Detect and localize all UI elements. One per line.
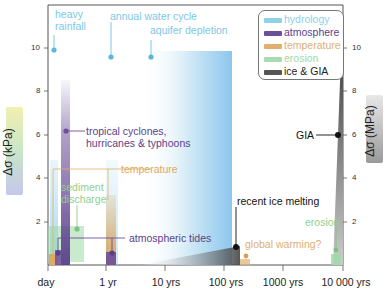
legend-item-ice-gia: ice & GIA: [264, 65, 328, 78]
erosion-dot: [334, 248, 339, 253]
heavy-rainfall-dot: [51, 47, 56, 52]
label-tropical-1: tropical cyclones,: [86, 125, 167, 137]
annual-water-cycle-dot: [108, 54, 113, 59]
x-tick-1000yrs: 1000 yrs: [263, 276, 303, 288]
x-tick-100yrs: 100 yrs: [209, 276, 243, 288]
left-axis-title: Δσ (kPa): [0, 124, 17, 179]
legend-item-atmosphere: atmosphere: [264, 26, 339, 39]
right-tick-6: 6: [352, 130, 356, 139]
label-tropical-2: hurricanes & typhoons: [86, 137, 190, 149]
legend-swatch-temperature: [264, 44, 282, 49]
aquifer-dot: [148, 54, 153, 59]
left-y-ticks: [44, 48, 48, 222]
x-tick-10yrs: 10 yrs: [152, 276, 181, 288]
label-sediment-2: discharge: [61, 193, 107, 205]
left-tick-2: 2: [36, 217, 40, 226]
right-tick-10: 10: [352, 43, 361, 52]
recent-ice-melting-dot: [233, 244, 239, 250]
right-axis-title: Δσ (MPa): [361, 101, 379, 160]
legend-item-temperature: temperature: [264, 39, 341, 52]
x-tick-10000yrs: 10 000 yrs: [321, 276, 370, 288]
global-warming-bar: [240, 259, 250, 265]
label-recent-ice-melting: recent ice melting: [237, 195, 319, 207]
legend-swatch-erosion: [264, 57, 282, 62]
gia-dot: [335, 132, 341, 138]
left-tick-8: 8: [36, 86, 40, 95]
label-aquifer-depletion: aquifer depletion: [150, 24, 228, 36]
right-tick-4: 4: [352, 173, 356, 182]
sediment-dot: [74, 226, 79, 231]
label-heavy-rainfall-1: heavy: [55, 8, 83, 20]
x-ticks: [48, 265, 343, 271]
legend-label-ice-gia: ice & GIA: [284, 65, 328, 77]
legend-label-erosion: erosion: [284, 52, 318, 64]
left-tick-10: 10: [31, 43, 40, 52]
label-sediment-1: sediment: [61, 181, 104, 193]
right-tick-8: 8: [352, 86, 356, 95]
legend: hydrology atmosphere temperature erosion…: [258, 10, 344, 80]
x-tick-1yr: 1 yr: [99, 276, 117, 288]
legend-swatch-hydrology: [264, 18, 282, 23]
x-tick-day: day: [38, 276, 55, 288]
left-tick-6: 6: [36, 130, 40, 139]
label-erosion: erosion: [305, 216, 339, 228]
label-atmospheric-tides: atmospheric tides: [129, 232, 211, 244]
erosion-10k-bar: [331, 254, 341, 265]
label-global-warming: global warming?: [245, 238, 321, 250]
cyclone-bar: [61, 80, 70, 265]
legend-label-hydrology: hydrology: [284, 13, 330, 25]
legend-item-hydrology: hydrology: [264, 13, 330, 26]
legend-swatch-ice-gia: [264, 70, 282, 75]
label-gia: GIA: [296, 129, 314, 141]
legend-label-atmosphere: atmosphere: [284, 26, 339, 38]
global-warming-dot: [244, 254, 249, 259]
label-temperature: temperature: [121, 163, 178, 175]
left-tick-4: 4: [36, 173, 40, 182]
legend-swatch-atmosphere: [264, 31, 282, 36]
right-tick-2: 2: [352, 217, 356, 226]
temperature-day-dot: [49, 255, 54, 260]
atmos-tides-day-dot: [55, 250, 60, 255]
cyclone-dot: [63, 128, 68, 133]
label-heavy-rainfall-2: rainfall: [55, 20, 86, 32]
legend-label-temperature: temperature: [284, 39, 341, 51]
legend-item-erosion: erosion: [264, 52, 318, 65]
label-annual-water-cycle: annual water cycle: [110, 10, 197, 22]
atmos-tides-year-dot: [109, 250, 114, 255]
